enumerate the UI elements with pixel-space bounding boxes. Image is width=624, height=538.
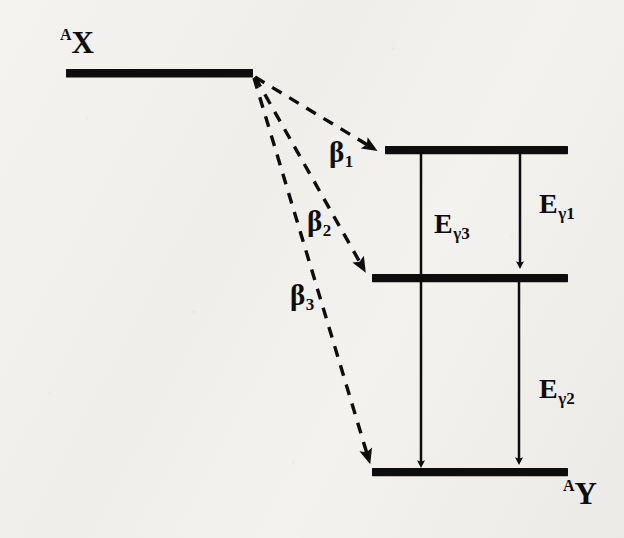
gamma-1-subscript: γ1 bbox=[558, 204, 574, 223]
gamma-2-subscript: γ2 bbox=[558, 389, 574, 408]
beta-3-arrow bbox=[254, 78, 368, 457]
parent-mass-number: A bbox=[60, 26, 72, 43]
gamma-3-label: Eγ3 bbox=[434, 210, 470, 242]
decay-scheme-figure: AX AY β1 β2 β3 Eγ3 Eγ1 Eγ2 bbox=[0, 0, 624, 538]
daughter-mass-number: A bbox=[563, 477, 575, 494]
daughter-excited-level-middle-line bbox=[372, 274, 568, 282]
daughter-excited-level-upper-line bbox=[385, 146, 568, 154]
parent-nuclide-label: AX bbox=[60, 27, 94, 58]
beta-3-label: β3 bbox=[290, 281, 314, 313]
parent-element-symbol: X bbox=[72, 25, 95, 60]
daughter-nuclide-label: AY bbox=[563, 478, 597, 509]
beta-1-label: β1 bbox=[329, 138, 353, 170]
daughter-element-symbol: Y bbox=[575, 476, 598, 511]
gamma-2-label: Eγ2 bbox=[539, 375, 575, 407]
beta-3-index: 3 bbox=[306, 295, 315, 314]
gamma-1-label: Eγ1 bbox=[539, 190, 575, 222]
beta-3-symbol: β bbox=[290, 279, 305, 311]
beta-2-symbol: β bbox=[307, 205, 322, 237]
gamma-1-symbol: E bbox=[539, 188, 558, 219]
gamma-2-symbol: E bbox=[539, 373, 558, 404]
beta-1-symbol: β bbox=[329, 136, 344, 168]
gamma-3-symbol: E bbox=[434, 208, 453, 239]
gamma-3-subscript: γ3 bbox=[453, 224, 469, 243]
beta-2-label: β2 bbox=[307, 207, 331, 239]
beta-1-index: 1 bbox=[345, 152, 354, 171]
parent-level-AX-line bbox=[66, 69, 253, 78]
beta-2-index: 2 bbox=[323, 221, 332, 240]
daughter-ground-level-AY-line bbox=[372, 468, 568, 476]
decay-scheme-canvas bbox=[0, 0, 624, 538]
